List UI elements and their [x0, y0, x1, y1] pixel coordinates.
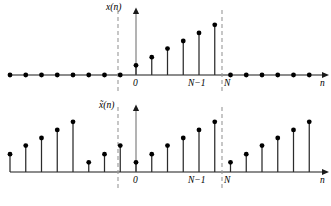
- figure-canvas: x(n) 0 N−1 N n x̃(n) 0 N−1 N n: [0, 0, 331, 206]
- stem-marker: [291, 127, 296, 132]
- stem-marker: [8, 73, 13, 78]
- vertical-axis-arrowhead: [133, 8, 139, 15]
- stem-marker: [134, 160, 139, 165]
- stem-marker: [260, 143, 265, 148]
- stem-plot-svg: [0, 0, 331, 206]
- bottom-signal-label: x̃(n): [99, 101, 114, 111]
- stem-marker: [71, 73, 76, 78]
- stem-marker: [55, 127, 60, 132]
- stem-marker: [39, 73, 44, 78]
- stem-marker: [181, 39, 186, 44]
- stem-marker: [291, 73, 296, 78]
- stem-marker: [244, 73, 249, 78]
- stem-marker: [149, 152, 154, 157]
- stem-marker: [212, 119, 217, 124]
- stem-marker: [86, 160, 91, 165]
- bottom-axis-label-n: n: [320, 176, 325, 186]
- stem-marker: [149, 55, 154, 60]
- stem-marker: [165, 46, 170, 51]
- stem-marker: [244, 152, 249, 157]
- stem-marker: [165, 143, 170, 148]
- bottom-tick-zero-label: 0: [133, 176, 138, 186]
- stem-marker: [197, 30, 202, 35]
- bottom-tick-n-label: N: [224, 176, 230, 186]
- top-tick-n-label: N: [224, 79, 230, 89]
- stem-marker: [8, 152, 13, 157]
- stem-marker: [197, 127, 202, 132]
- stem-marker: [228, 160, 233, 165]
- stem-marker: [55, 73, 60, 78]
- stem-marker: [134, 63, 139, 68]
- stem-marker: [118, 73, 123, 78]
- bottom-panel-graphics: [8, 105, 329, 191]
- stem-marker: [71, 119, 76, 124]
- stem-marker: [23, 73, 28, 78]
- top-tick-nminus1-label: N−1: [188, 79, 206, 89]
- top-signal-label: x(n): [106, 3, 121, 13]
- stem-marker: [102, 152, 107, 157]
- stem-marker: [23, 143, 28, 148]
- stem-marker: [307, 73, 312, 78]
- stem-marker: [275, 136, 280, 141]
- top-tick-zero-label: 0: [133, 79, 138, 89]
- stem-marker: [260, 73, 265, 78]
- top-panel-graphics: [8, 8, 329, 95]
- stem-marker: [212, 22, 217, 27]
- stem-marker: [275, 73, 280, 78]
- stem-marker: [118, 143, 123, 148]
- stem-marker: [86, 73, 91, 78]
- bottom-tick-nminus1-label: N−1: [188, 176, 206, 186]
- top-axis-label-n: n: [320, 79, 325, 89]
- stem-marker: [228, 73, 233, 78]
- stem-marker: [181, 136, 186, 141]
- stem-marker: [307, 119, 312, 124]
- stem-marker: [102, 73, 107, 78]
- stem-marker: [39, 136, 44, 141]
- vertical-axis-arrowhead: [133, 105, 139, 112]
